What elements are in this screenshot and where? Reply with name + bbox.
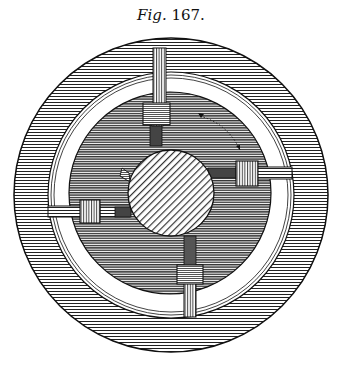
mechanical-figure bbox=[0, 0, 342, 370]
